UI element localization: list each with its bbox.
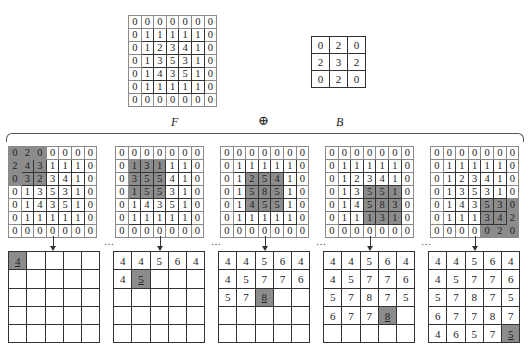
- grid-cell: 0: [401, 199, 414, 212]
- grid-row: 0143510: [116, 199, 204, 212]
- grid-cell: 0: [204, 68, 217, 81]
- grid-cell: 1: [468, 160, 481, 173]
- grid-row: 57875: [324, 288, 415, 306]
- grid-cell: 1: [283, 173, 296, 186]
- grid-cell: 1: [363, 160, 376, 173]
- grid-cell: 0: [338, 225, 351, 238]
- grid-cell: 0: [431, 199, 444, 212]
- grid-cell: 1: [456, 160, 469, 173]
- grid-row: 0143510: [129, 68, 217, 81]
- grid-cell: 4: [502, 252, 520, 270]
- grid-cell: 1: [71, 160, 84, 173]
- grid-cell: 0: [351, 147, 364, 160]
- grid-cell: [27, 252, 45, 270]
- grid-cell: 5: [219, 288, 237, 306]
- grid-row: 0111110: [221, 160, 309, 173]
- grid-cell: 4: [21, 160, 34, 173]
- grid-cell: 0: [128, 147, 141, 160]
- grid-row: [9, 288, 100, 306]
- grid-cell: 1: [283, 160, 296, 173]
- step-output-grid: 4456445776578756778746575: [428, 251, 520, 343]
- grid-cell: [273, 325, 291, 343]
- grid-cell: 3: [166, 42, 179, 55]
- grid-cell: 0: [493, 147, 506, 160]
- grid-cell: 4: [187, 252, 205, 270]
- grid-cell: 3: [376, 212, 389, 225]
- down-arrow-icon: [265, 236, 266, 247]
- grid-cell: 4: [154, 68, 167, 81]
- grid-cell: 2: [351, 173, 364, 186]
- down-arrow-icon: [370, 236, 371, 247]
- grid-row: 020: [312, 71, 366, 88]
- grid-cell: 3: [166, 186, 179, 199]
- grid-cell: 1: [191, 42, 204, 55]
- grid-cell: 5: [150, 252, 168, 270]
- grid-cell: 5: [447, 270, 465, 288]
- grid-cell: 1: [46, 160, 59, 173]
- grid-cell: 1: [21, 212, 34, 225]
- grid-row: 44564: [114, 252, 205, 270]
- grid-cell: 0: [431, 173, 444, 186]
- grid-cell: 0: [431, 160, 444, 173]
- grid-cell: 4: [429, 325, 447, 343]
- grid-cell: 0: [348, 37, 366, 54]
- grid-cell: 1: [21, 186, 34, 199]
- grid-cell: [187, 306, 205, 324]
- grid-row: 0000000: [129, 94, 217, 107]
- grid-cell: 0: [116, 160, 129, 173]
- step-output-grid: 4456445776578: [218, 251, 310, 343]
- grid-cell: 0: [401, 186, 414, 199]
- grid-cell: 5: [141, 186, 154, 199]
- grid-cell: 4: [429, 252, 447, 270]
- grid-cell: 3: [128, 173, 141, 186]
- grid-cell: 3: [34, 160, 47, 173]
- grid-cell: 1: [443, 186, 456, 199]
- grid-cell: [292, 325, 310, 343]
- grid-cell: 0: [506, 199, 519, 212]
- grid-cell: 3: [481, 186, 494, 199]
- grid-cell: [9, 288, 27, 306]
- grid-cell: 4: [219, 252, 237, 270]
- grid-cell: [27, 306, 45, 324]
- grid-cell: 1: [178, 199, 191, 212]
- grid-cell: 1: [443, 199, 456, 212]
- grid-cell: 0: [84, 186, 97, 199]
- grid-cell: [27, 270, 45, 288]
- grid-cell: 5: [363, 199, 376, 212]
- grid-cell: 1: [456, 212, 469, 225]
- grid-cell: 3: [363, 173, 376, 186]
- grid-row: 0200000: [9, 147, 97, 160]
- grid-cell: 0: [481, 147, 494, 160]
- grid-cell: 3: [46, 199, 59, 212]
- grid-cell: 7: [483, 270, 501, 288]
- grid-cell: 0: [84, 212, 97, 225]
- grid-cell: 0: [166, 16, 179, 29]
- grid-cell: 5: [324, 288, 342, 306]
- grid-row: 46575: [429, 325, 520, 343]
- grid-row: 0111342: [431, 212, 519, 225]
- grid-cell: 7: [483, 325, 501, 343]
- grid-cell: 5: [376, 186, 389, 199]
- grid-cell: 5: [465, 252, 483, 270]
- grid-cell: 1: [71, 212, 84, 225]
- grid-cell: [273, 306, 291, 324]
- grid-cell: 0: [363, 147, 376, 160]
- grid-cell: 3: [388, 199, 401, 212]
- grid-cell: 3: [154, 55, 167, 68]
- grid-row: 0123410: [431, 173, 519, 186]
- grid-cell: 0: [401, 225, 414, 238]
- grid-cell: 3: [34, 186, 47, 199]
- grid-cell: 1: [59, 160, 72, 173]
- grid-cell: 0: [468, 147, 481, 160]
- grid-cell: 1: [141, 68, 154, 81]
- grid-cell: 4: [141, 199, 154, 212]
- grid-cell: [168, 325, 186, 343]
- grid-cell: 0: [296, 173, 309, 186]
- down-arrow-icon: [475, 236, 476, 247]
- grid-cell: 5: [258, 173, 271, 186]
- grid-cell: 0: [326, 173, 339, 186]
- grid-cell: 0: [204, 29, 217, 42]
- grid-cell: 0: [271, 225, 284, 238]
- grid-cell: 0: [388, 147, 401, 160]
- grid-cell: 4: [342, 252, 360, 270]
